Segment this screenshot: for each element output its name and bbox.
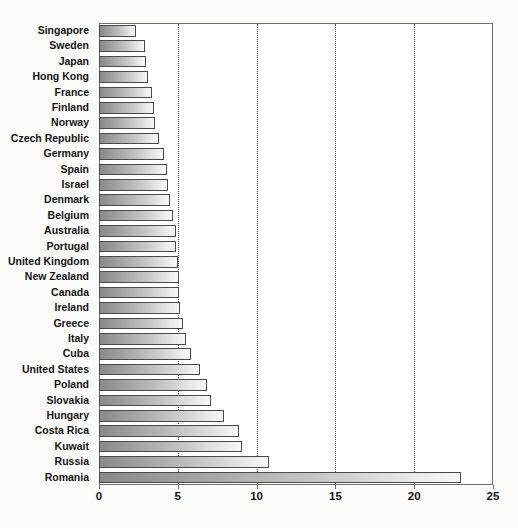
y-axis-label-czech-republic: Czech Republic bbox=[11, 131, 89, 146]
bar-row bbox=[99, 162, 493, 177]
y-axis-label-australia: Australia bbox=[44, 223, 89, 238]
bar-row bbox=[99, 254, 493, 269]
bar-row bbox=[99, 316, 493, 331]
y-axis-label-sweden: Sweden bbox=[49, 38, 89, 53]
bar-row bbox=[99, 38, 493, 53]
x-tick-mark-5 bbox=[178, 485, 179, 489]
y-axis-label-france: France bbox=[55, 85, 89, 100]
bar-series bbox=[99, 23, 493, 485]
bar-row bbox=[99, 223, 493, 238]
bar-row bbox=[99, 408, 493, 423]
bar-kuwait bbox=[99, 441, 242, 453]
bar-row bbox=[99, 115, 493, 130]
bar-row bbox=[99, 146, 493, 161]
y-axis-label-israel: Israel bbox=[62, 177, 89, 192]
y-axis-labels: SingaporeSwedenJapanHong KongFranceFinla… bbox=[0, 23, 95, 485]
bar-row bbox=[99, 131, 493, 146]
bar-row bbox=[99, 208, 493, 223]
bar-row bbox=[99, 23, 493, 38]
bar-cuba bbox=[99, 348, 191, 360]
bar-row bbox=[99, 239, 493, 254]
y-axis-label-cuba: Cuba bbox=[63, 346, 89, 361]
bar-hong-kong bbox=[99, 71, 148, 83]
y-axis-label-spain: Spain bbox=[60, 162, 89, 177]
bar-hungary bbox=[99, 410, 224, 422]
x-tick-mark-15 bbox=[335, 485, 336, 489]
y-axis-label-romania: Romania bbox=[45, 470, 89, 485]
y-axis-label-hungary: Hungary bbox=[46, 408, 89, 423]
bar-canada bbox=[99, 287, 179, 299]
bar-poland bbox=[99, 379, 207, 391]
bar-norway bbox=[99, 117, 155, 129]
bar-singapore bbox=[99, 25, 136, 37]
bar-costa-rica bbox=[99, 425, 239, 437]
y-axis-label-canada: Canada bbox=[51, 285, 89, 300]
bar-finland bbox=[99, 102, 154, 114]
bar-row bbox=[99, 85, 493, 100]
y-axis-label-denmark: Denmark bbox=[44, 192, 89, 207]
bar-portugal bbox=[99, 241, 176, 253]
y-axis-label-poland: Poland bbox=[54, 377, 89, 392]
bar-belgium bbox=[99, 210, 173, 222]
bar-row bbox=[99, 285, 493, 300]
x-tick-label-25: 25 bbox=[487, 490, 500, 502]
bar-ireland bbox=[99, 302, 180, 314]
bar-israel bbox=[99, 179, 168, 191]
y-axis-label-germany: Germany bbox=[43, 146, 89, 161]
bar-japan bbox=[99, 56, 146, 68]
bar-germany bbox=[99, 148, 164, 160]
bar-row bbox=[99, 269, 493, 284]
y-axis-label-singapore: Singapore bbox=[38, 23, 89, 38]
x-tick-label-10: 10 bbox=[250, 490, 263, 502]
y-axis-label-hong-kong: Hong Kong bbox=[32, 69, 89, 84]
bar-row bbox=[99, 470, 493, 485]
bar-sweden bbox=[99, 40, 145, 52]
y-axis-label-new-zealand: New Zealand bbox=[25, 269, 89, 284]
x-axis: 0510152025 bbox=[0, 486, 518, 516]
x-tick-label-15: 15 bbox=[329, 490, 342, 502]
y-axis-label-costa-rica: Costa Rica bbox=[35, 423, 89, 438]
y-axis-label-ireland: Ireland bbox=[55, 300, 89, 315]
bar-united-states bbox=[99, 364, 200, 376]
y-axis-label-russia: Russia bbox=[55, 454, 89, 469]
y-axis-label-italy: Italy bbox=[68, 331, 89, 346]
x-tick-label-20: 20 bbox=[408, 490, 421, 502]
x-tick-mark-10 bbox=[257, 485, 258, 489]
bar-spain bbox=[99, 164, 167, 176]
y-axis-label-finland: Finland bbox=[52, 100, 89, 115]
bar-chart: SingaporeSwedenJapanHong KongFranceFinla… bbox=[0, 0, 518, 528]
bar-france bbox=[99, 87, 152, 99]
bar-row bbox=[99, 192, 493, 207]
bar-row bbox=[99, 377, 493, 392]
y-axis-label-kuwait: Kuwait bbox=[55, 439, 89, 454]
x-tick-mark-20 bbox=[414, 485, 415, 489]
bar-row bbox=[99, 454, 493, 469]
bar-row bbox=[99, 100, 493, 115]
bar-russia bbox=[99, 456, 269, 468]
y-axis-label-united-kingdom: United Kingdom bbox=[8, 254, 89, 269]
y-axis-label-japan: Japan bbox=[59, 54, 89, 69]
bar-slovakia bbox=[99, 395, 211, 407]
y-axis-label-slovakia: Slovakia bbox=[46, 393, 89, 408]
x-tick-mark-0 bbox=[99, 485, 100, 489]
y-axis-label-belgium: Belgium bbox=[48, 208, 89, 223]
bar-italy bbox=[99, 333, 186, 345]
y-axis-label-portugal: Portugal bbox=[46, 239, 89, 254]
x-tick-label-5: 5 bbox=[175, 490, 181, 502]
bar-row bbox=[99, 362, 493, 377]
bar-row bbox=[99, 439, 493, 454]
bar-row bbox=[99, 69, 493, 84]
bar-denmark bbox=[99, 194, 170, 206]
bar-czech-republic bbox=[99, 133, 159, 145]
bar-romania bbox=[99, 472, 461, 484]
y-axis-label-norway: Norway bbox=[51, 115, 89, 130]
bar-new-zealand bbox=[99, 271, 179, 283]
x-tick-mark-25 bbox=[493, 485, 494, 489]
bar-row bbox=[99, 393, 493, 408]
y-axis-label-greece: Greece bbox=[53, 316, 89, 331]
bar-row bbox=[99, 423, 493, 438]
bar-row bbox=[99, 346, 493, 361]
bar-greece bbox=[99, 318, 183, 330]
bar-australia bbox=[99, 225, 176, 237]
x-tick-label-0: 0 bbox=[96, 490, 102, 502]
